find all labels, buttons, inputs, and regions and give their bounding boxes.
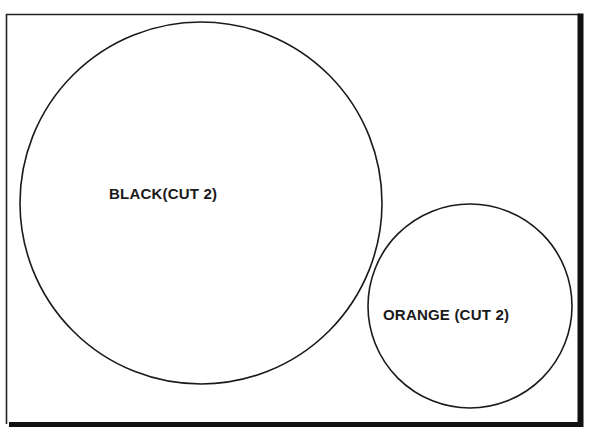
black-circle-label: BLACK(CUT 2): [109, 186, 217, 201]
black-circle: [20, 22, 382, 384]
orange-circle-label: ORANGE (CUT 2): [383, 307, 509, 322]
diagram-canvas: [0, 0, 591, 436]
frame: [6, 14, 583, 428]
